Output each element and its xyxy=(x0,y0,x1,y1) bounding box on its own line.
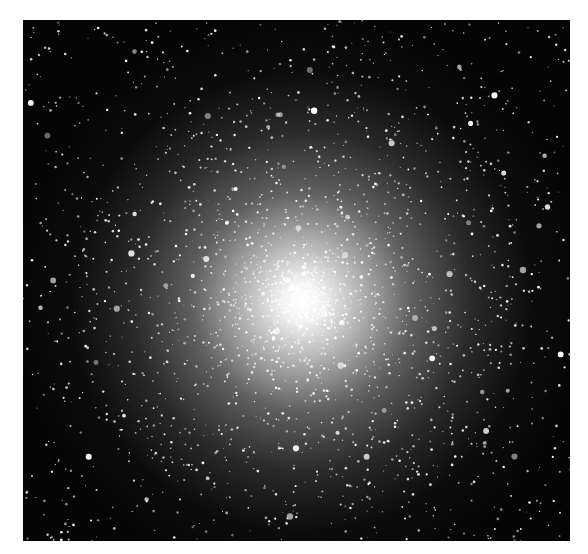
star-cluster-photo xyxy=(23,20,570,541)
starfield xyxy=(23,20,570,541)
